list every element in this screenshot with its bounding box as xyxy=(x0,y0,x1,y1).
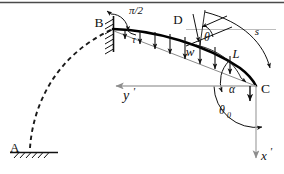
angle-arc-alpha xyxy=(220,61,229,92)
label-point-b: B xyxy=(94,15,103,30)
label-angle-theta-zero-subscript: 0 xyxy=(227,111,231,120)
label-point-a: A xyxy=(10,140,20,155)
label-point-d: D xyxy=(173,12,182,27)
label-angle-theta: θ xyxy=(204,30,210,44)
label-angle-theta-zero: θ 0 xyxy=(219,103,231,120)
label-arc-s: s xyxy=(255,25,259,37)
label-axis-y-prime: y ' xyxy=(121,85,136,103)
label-axis-x-prime: x ' xyxy=(260,145,273,163)
label-axis-x-prime-base: x xyxy=(260,148,267,163)
angle-arc-pi-over-two-tail xyxy=(107,11,111,14)
label-angle-theta-zero-base: θ xyxy=(219,103,225,117)
beam-diagram-svg: B A C D π/2 τ θ α θ 0 w L s y ' x ' xyxy=(0,0,284,174)
label-length-l: L xyxy=(232,47,240,61)
label-load-w: w xyxy=(186,44,195,59)
dashed-arc-a-to-b xyxy=(30,29,113,148)
label-axis-x-prime-tick: ' xyxy=(270,145,273,157)
label-angle-pi-over-two: π/2 xyxy=(129,4,144,16)
point-d-leader xyxy=(193,14,199,42)
label-angle-alpha: α xyxy=(229,83,236,95)
fixed-wall-support-b xyxy=(105,16,114,54)
label-axis-y-prime-base: y xyxy=(121,88,130,103)
label-axis-y-prime-tick: ' xyxy=(133,85,136,97)
label-point-c: C xyxy=(261,81,270,96)
distributed-load-arrows xyxy=(125,30,230,74)
figure-canvas: B A C D π/2 τ θ α θ 0 w L s y ' x ' xyxy=(0,0,284,174)
